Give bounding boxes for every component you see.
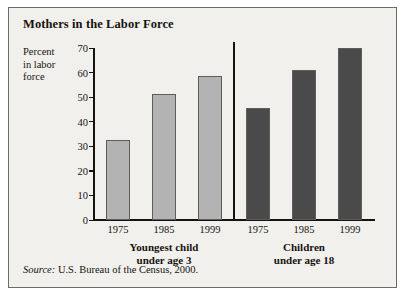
- source-label: Source:: [23, 264, 55, 275]
- y-tick-label: 30: [78, 141, 89, 152]
- x-tick-label: 1999: [340, 224, 361, 235]
- bar: [246, 108, 270, 220]
- y-tick-label: 40: [78, 116, 89, 127]
- bar: [198, 76, 222, 220]
- bar: [106, 140, 130, 220]
- y-tick-mark: [89, 170, 93, 171]
- x-tick-label: 1985: [154, 224, 175, 235]
- y-tick-label: 50: [78, 92, 89, 103]
- source-text: U.S. Bureau of the Census, 2000.: [55, 264, 198, 275]
- bar: [338, 48, 362, 220]
- y-tick-mark: [89, 48, 93, 49]
- plot-area: 010203040506070 197519851999197519851999…: [93, 48, 375, 220]
- y-tick-mark: [89, 146, 93, 147]
- source-note: Source: U.S. Bureau of the Census, 2000.: [23, 264, 198, 275]
- y-tick-label: 20: [78, 165, 89, 176]
- y-tick-label: 0: [83, 215, 88, 226]
- chart-card: Mothers in the Labor Force Percentin lab…: [8, 7, 397, 288]
- y-tick-mark: [89, 72, 93, 73]
- chart-title: Mothers in the Labor Force: [23, 17, 174, 32]
- y-tick-label: 60: [78, 67, 89, 78]
- y-tick-label: 10: [78, 190, 89, 201]
- x-tick-label: 1975: [248, 224, 269, 235]
- group-label: Childrenunder age 18: [274, 241, 334, 267]
- group-label-line1: Children: [274, 241, 334, 254]
- bar: [292, 70, 316, 220]
- y-tick-mark: [89, 195, 93, 196]
- x-tick-label: 1999: [200, 224, 221, 235]
- y-tick-mark: [89, 220, 93, 221]
- x-tick-label: 1985: [294, 224, 315, 235]
- group-label-line2: under age 18: [274, 254, 334, 267]
- bar: [152, 94, 176, 219]
- y-tick-mark: [89, 121, 93, 122]
- group-label-line1: Youngest child: [130, 241, 199, 254]
- group-divider-line: [233, 42, 235, 220]
- y-axis-line: [93, 48, 95, 220]
- y-tick-mark: [89, 97, 93, 98]
- y-tick-label: 70: [78, 43, 89, 54]
- x-tick-label: 1975: [108, 224, 129, 235]
- y-axis-title: Percentin laborforce: [23, 46, 55, 84]
